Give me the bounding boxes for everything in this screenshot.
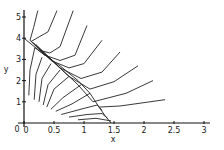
trajectory-curve: [34, 57, 42, 99]
y-axis-label: y: [4, 65, 9, 74]
trajectory-curve: [39, 49, 138, 89]
trajectory-curve: [42, 51, 153, 102]
x-tick-label: 1: [81, 126, 86, 135]
trajectory-curves: [24, 11, 165, 123]
x-axis-label: x: [111, 135, 116, 144]
y-tick-label: 4: [16, 34, 21, 43]
y-tick-label: 3: [16, 55, 21, 64]
trajectory-curve: [43, 70, 60, 105]
x-tick-label: 1.5: [108, 126, 121, 135]
trajectory-curve: [99, 100, 165, 107]
trajectory-curve: [69, 114, 108, 119]
x-tick-label: 0: [23, 126, 28, 135]
separatrix-curve: [24, 38, 111, 123]
trajectory-curve: [36, 45, 120, 79]
phase-portrait-chart: 00.511.522.53 12345 x y 0: [0, 0, 224, 150]
x-tick-label: 2.5: [168, 126, 181, 135]
y-tick-label: 1: [16, 98, 21, 107]
origin-y-zero-label: 0: [14, 125, 19, 134]
x-tick-label: 3: [201, 126, 206, 135]
trajectory-curve: [78, 118, 111, 121]
y-tick-label: 2: [16, 77, 21, 86]
trajectory-curve: [31, 11, 87, 61]
trajectory-curve: [51, 85, 81, 109]
x-tick-label: 2: [141, 126, 146, 135]
x-tick-label: 0.5: [48, 126, 61, 135]
y-tick-label: 5: [16, 13, 21, 22]
